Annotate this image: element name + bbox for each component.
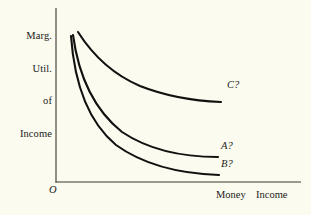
x-axis-label: Money Income: [216, 190, 287, 201]
y-axis-label-line-2: Util.: [2, 64, 52, 75]
curve-label-c: C?: [227, 80, 239, 91]
y-axis-label-line-1: Marg.: [2, 31, 52, 42]
y-axis-label-line-4: Income: [2, 129, 52, 140]
curve-c: [78, 32, 221, 102]
y-axis-label-line-3: of: [2, 96, 52, 107]
curve-label-a: A?: [221, 141, 233, 152]
origin-label: O: [49, 185, 57, 196]
curve-b: [71, 36, 219, 175]
curve-label-b: B?: [221, 159, 233, 170]
curves: [71, 32, 221, 175]
marginal-utility-chart: Marg. Util. of Income Money Income O C? …: [0, 0, 311, 215]
y-axis-label: Marg. Util. of Income: [2, 9, 52, 162]
